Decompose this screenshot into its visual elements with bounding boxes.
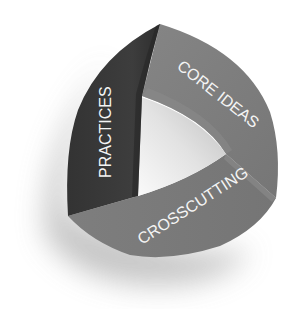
label-practices: PRACTICES — [97, 86, 114, 178]
three-dimensions-diagram: PRACTICES CORE IDEAS CROSSCUTTING — [0, 0, 299, 309]
diagram-canvas: PRACTICES CORE IDEAS CROSSCUTTING — [0, 0, 299, 309]
